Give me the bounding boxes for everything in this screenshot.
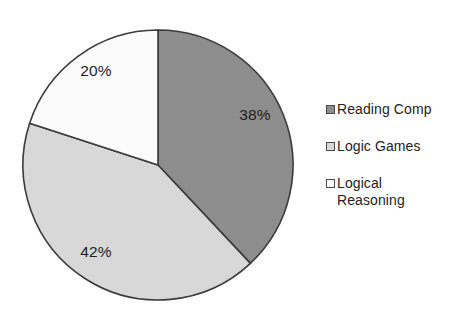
legend-swatch-icon-reading-comp — [326, 105, 335, 114]
legend-label-logical-reasoning: Logical Reasoning — [337, 175, 405, 209]
legend-item-reading-comp[interactable]: Reading Comp — [326, 101, 449, 118]
pie-plot-area: 38% 42% 20% — [0, 0, 320, 321]
legend-label-logic-games: Logic Games — [337, 138, 421, 155]
legend-item-logical-reasoning[interactable]: Logical Reasoning — [326, 175, 449, 209]
slice-label-logic-games: 42% — [80, 243, 112, 260]
pie-chart-figure: 38% 42% 20% Reading Comp Logic Games Log… — [0, 0, 449, 321]
legend-swatch-icon-logic-games — [326, 142, 335, 151]
legend-swatch-icon-logical-reasoning — [326, 179, 335, 188]
legend-item-logic-games[interactable]: Logic Games — [326, 138, 449, 155]
pie-svg: 38% 42% 20% — [0, 0, 320, 321]
slice-label-logical-reasoning: 20% — [80, 62, 112, 79]
chart-legend: Reading Comp Logic Games Logical Reasoni… — [326, 101, 449, 209]
slice-label-reading-comp: 38% — [239, 106, 271, 123]
pie-slices — [23, 30, 293, 300]
legend-label-reading-comp: Reading Comp — [337, 101, 432, 118]
